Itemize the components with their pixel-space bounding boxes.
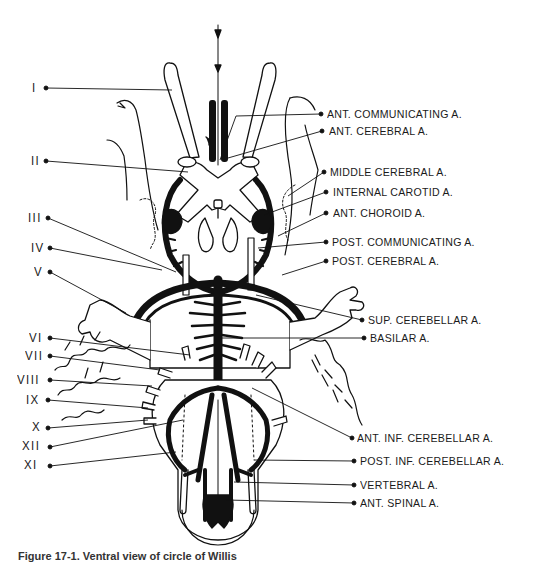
label-post-inf-cerebellar-artery: POST. INF. CEREBELLAR A. [360, 455, 504, 467]
label-post-cerebral-artery: POST. CEREBRAL A. [332, 255, 439, 267]
label-cranial-nerve-VI: VI [29, 332, 43, 344]
label-cranial-nerve-VIII: VIII [17, 374, 40, 386]
label-ant-inf-cerebellar-artery: ANT. INF. CEREBELLAR A. [357, 432, 493, 444]
olfactory-tracts [164, 63, 276, 158]
label-cranial-nerve-XI: XI [24, 459, 38, 471]
label-cranial-nerve-VII: VII [25, 350, 43, 362]
label-ant-cerebral-artery: ANT. CEREBRAL A. [329, 125, 428, 137]
label-cranial-nerve-XII: XII [22, 440, 40, 452]
label-cranial-nerve-IV: IV [31, 242, 45, 254]
label-internal-carotid-artery: INTERNAL CAROTID A. [333, 186, 453, 198]
label-cranial-nerve-I: I [32, 82, 37, 94]
label-basilar-artery: BASILAR A. [370, 332, 430, 344]
figure-caption: Figure 17-1. Ventral view of circle of W… [18, 550, 237, 562]
label-ant-spinal-artery: ANT. SPINAL A. [360, 497, 439, 509]
label-cranial-nerve-V: V [34, 266, 43, 278]
label-middle-cerebral-artery: MIDDLE CEREBRAL A. [330, 166, 447, 178]
label-ant-choroid-artery: ANT. CHOROID A. [333, 207, 425, 219]
label-cranial-nerve-II: II [31, 155, 40, 167]
label-cranial-nerve-X: X [32, 421, 41, 433]
label-post-communicating-artery: POST. COMMUNICATING A. [332, 236, 475, 248]
label-sup-cerebellar-artery: SUP. CEREBELLAR A. [368, 314, 482, 326]
label-ant-communicating-artery: ANT. COMMUNICATING A. [327, 108, 462, 120]
label-cranial-nerve-IX: IX [26, 394, 40, 406]
label-cranial-nerve-III: III [28, 212, 42, 224]
label-vertebral-artery: VERTEBRAL A. [360, 479, 438, 491]
